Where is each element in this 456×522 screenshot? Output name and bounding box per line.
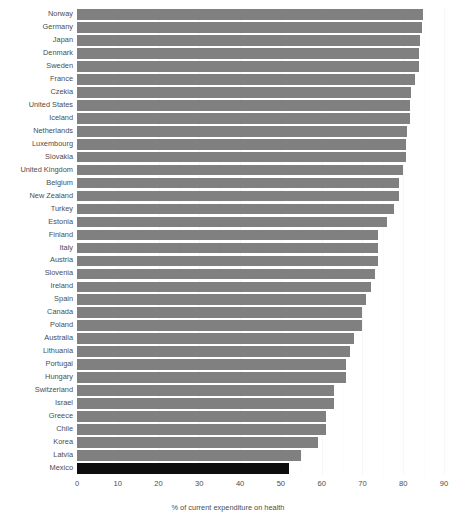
bar-row [77, 73, 444, 86]
bar-row [77, 436, 444, 449]
x-axis: 0102030405060708090 [77, 479, 444, 493]
bar-row [77, 280, 444, 293]
bar-row [77, 449, 444, 462]
bar-czekia [77, 87, 411, 98]
bar-greece [77, 411, 326, 422]
bar-united-states [77, 100, 410, 111]
bar-row [77, 384, 444, 397]
bar-portugal [77, 359, 346, 370]
x-tick-label-70: 70 [358, 479, 366, 488]
bar-row [77, 216, 444, 229]
bar-netherlands [77, 126, 407, 137]
bar-norway [77, 9, 423, 20]
bar-row [77, 190, 444, 203]
y-axis-label-austria: Austria [0, 254, 73, 267]
y-axis-label-luxembourg: Luxembourg [0, 138, 73, 151]
x-tick-label-20: 20 [154, 479, 162, 488]
y-axis-label-spain: Spain [0, 293, 73, 306]
y-axis-label-new-zealand: New Zealand [0, 190, 73, 203]
bar-mexico [77, 463, 289, 474]
y-axis-label-norway: Norway [0, 8, 73, 21]
bar-row [77, 8, 444, 21]
y-axis-label-australia: Australia [0, 332, 73, 345]
bar-row [77, 319, 444, 332]
bar-slovenia [77, 269, 375, 280]
bar-row [77, 125, 444, 138]
bar-poland [77, 320, 362, 331]
bar-row [77, 203, 444, 216]
y-axis-labels: NorwayGermanyJapanDenmarkSwedenFranceCze… [0, 8, 73, 475]
bar-iceland [77, 113, 410, 124]
y-axis-label-france: France [0, 73, 73, 86]
x-tick-label-90: 90 [440, 479, 448, 488]
y-axis-label-italy: Italy [0, 242, 73, 255]
x-tick-label-80: 80 [399, 479, 407, 488]
y-axis-label-latvia: Latvia [0, 449, 73, 462]
bar-australia [77, 333, 354, 344]
bar-row [77, 358, 444, 371]
x-tick-label-40: 40 [236, 479, 244, 488]
bar-italy [77, 243, 378, 254]
bar-korea [77, 437, 318, 448]
y-axis-label-belgium: Belgium [0, 177, 73, 190]
bar-row [77, 34, 444, 47]
bar-row [77, 332, 444, 345]
y-axis-label-denmark: Denmark [0, 47, 73, 60]
bar-chart: NorwayGermanyJapanDenmarkSwedenFranceCze… [0, 0, 456, 522]
bar-turkey [77, 204, 394, 215]
y-axis-label-germany: Germany [0, 21, 73, 34]
bar-row [77, 410, 444, 423]
bar-united-kingdom [77, 165, 403, 176]
bar-denmark [77, 48, 419, 59]
bar-row [77, 164, 444, 177]
y-axis-label-estonia: Estonia [0, 216, 73, 229]
bar-luxembourg [77, 139, 406, 150]
bar-finland [77, 230, 378, 241]
bar-new-zealand [77, 191, 399, 202]
bar-row [77, 86, 444, 99]
y-axis-label-united-states: United States [0, 99, 73, 112]
bar-belgium [77, 178, 399, 189]
bar-row [77, 267, 444, 280]
bar-row [77, 254, 444, 267]
y-axis-label-israel: Israel [0, 397, 73, 410]
y-axis-label-chile: Chile [0, 423, 73, 436]
y-axis-label-greece: Greece [0, 410, 73, 423]
bar-spain [77, 294, 366, 305]
bar-row [77, 229, 444, 242]
bar-hungary [77, 372, 346, 383]
bar-row [77, 151, 444, 164]
y-axis-label-poland: Poland [0, 319, 73, 332]
bar-rows [77, 8, 444, 475]
bar-slovakia [77, 152, 406, 163]
x-tick-label-60: 60 [317, 479, 325, 488]
bar-row [77, 345, 444, 358]
y-axis-label-united-kingdom: United Kingdom [0, 164, 73, 177]
y-axis-label-czekia: Czekia [0, 86, 73, 99]
y-axis-label-iceland: Iceland [0, 112, 73, 125]
bar-ireland [77, 282, 371, 293]
bar-row [77, 21, 444, 34]
y-axis-label-korea: Korea [0, 436, 73, 449]
y-axis-label-switzerland: Switzerland [0, 384, 73, 397]
bar-israel [77, 398, 334, 409]
bar-estonia [77, 217, 387, 228]
y-axis-label-canada: Canada [0, 306, 73, 319]
bar-row [77, 397, 444, 410]
bar-row [77, 112, 444, 125]
bar-row [77, 371, 444, 384]
y-axis-label-sweden: Sweden [0, 60, 73, 73]
y-axis-label-finland: Finland [0, 229, 73, 242]
y-axis-label-turkey: Turkey [0, 203, 73, 216]
y-axis-label-netherlands: Netherlands [0, 125, 73, 138]
bar-row [77, 99, 444, 112]
x-tick-label-10: 10 [114, 479, 122, 488]
bar-france [77, 74, 415, 85]
x-tick-label-50: 50 [277, 479, 285, 488]
y-axis-label-portugal: Portugal [0, 358, 73, 371]
gridline-90 [444, 8, 445, 475]
y-axis-label-slovakia: Slovakia [0, 151, 73, 164]
y-axis-label-mexico: Mexico [0, 462, 73, 475]
bar-chile [77, 424, 326, 435]
bar-germany [77, 22, 422, 33]
